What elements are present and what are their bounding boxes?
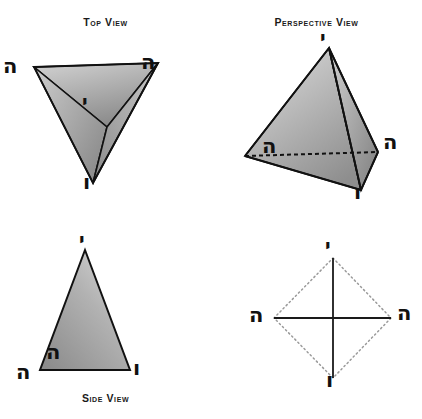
axis-view-figure	[211, 210, 422, 419]
side-view-letter-outer-left: ה	[16, 362, 30, 383]
axis-view-letter-left: ה	[249, 305, 263, 326]
top-view-letter-left: ה	[3, 56, 17, 77]
panel-perspective-view: Perspective View י ה ה ו	[211, 0, 422, 209]
side-view-letter-apex: י	[79, 230, 85, 249]
side-view-title: Side View	[0, 392, 211, 404]
side-view-letter-inner-left: ה	[46, 342, 60, 363]
perspective-letter-front: ו	[354, 182, 361, 203]
side-view-letter-right: ו	[133, 358, 140, 379]
panel-axis-view: י ה ה ו	[211, 210, 422, 419]
panel-top-view: Top View ה ה י ו	[0, 0, 211, 209]
top-view-letter-bottom: ו	[83, 172, 90, 193]
perspective-letter-right: ה	[383, 132, 397, 153]
perspective-letter-apex: י	[320, 28, 326, 47]
axis-view-letter-right: ה	[397, 303, 411, 324]
side-view-figure	[0, 210, 211, 419]
axis-view-letter-bottom: ו	[326, 370, 333, 391]
perspective-view-figure	[211, 0, 422, 209]
top-view-letter-right: ה	[141, 52, 155, 73]
perspective-face-front-left	[245, 48, 361, 190]
axis-view-letter-top: י	[325, 236, 331, 255]
perspective-letter-left: ה	[262, 136, 276, 157]
panel-side-view: י ה ה ו Side View	[0, 210, 211, 419]
top-view-figure	[0, 0, 211, 209]
top-view-letter-center: י	[82, 92, 88, 111]
